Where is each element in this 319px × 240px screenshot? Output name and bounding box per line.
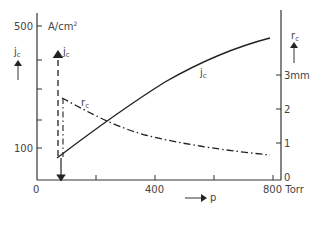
y-right-axis-name-sub: c	[295, 35, 299, 43]
x-tick-800: 800 Torr	[263, 184, 304, 195]
y-right-tick-1: 1	[284, 138, 290, 149]
y-left-axis-name: jc	[14, 46, 21, 59]
jc-curve-label-sub: c	[203, 72, 207, 80]
y-left-unit: A/cm2	[48, 21, 77, 33]
y-right-axis-name: rc	[291, 30, 299, 43]
x-ticks	[96, 175, 273, 180]
rc-curve-label-sub: c	[85, 102, 89, 110]
x-tick-400: 400	[145, 184, 164, 195]
y-left-unit-text: A/cm	[48, 21, 73, 32]
y-left-tick-500: 500	[14, 21, 33, 32]
y-right-tick-3: 3mm	[284, 70, 310, 81]
threshold-arrow-label: jc	[63, 46, 70, 59]
x-tick-0: 0	[33, 184, 39, 195]
y-left-unit-sup: 2	[73, 20, 77, 27]
x-axis-name: p	[210, 192, 216, 203]
y-right-tick-0: 0	[284, 172, 290, 183]
jc-curve-label: jc	[200, 67, 207, 80]
rc-curve-label: rc	[81, 97, 89, 110]
y-left-tick-100: 100	[14, 143, 33, 154]
rc-curve	[62, 98, 270, 155]
y-right-tick-2: 2	[284, 104, 290, 115]
threshold-arrow-label-sub: c	[66, 51, 70, 59]
right-y-ticks	[276, 75, 281, 143]
left-y-ticks	[37, 26, 42, 148]
y-left-axis-name-sub: c	[17, 51, 21, 59]
